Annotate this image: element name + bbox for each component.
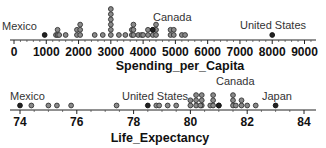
data-point (29, 103, 34, 108)
data-point (63, 33, 68, 38)
data-point (231, 93, 236, 98)
tick-label: 3000 (97, 45, 124, 59)
data-point (188, 98, 193, 103)
data-point (171, 33, 176, 38)
highlighted-point[interactable] (42, 33, 47, 38)
data-point (239, 98, 244, 103)
highlighted-point[interactable] (18, 103, 23, 108)
tick-label: 7000 (227, 45, 254, 59)
point-annotation: United States (122, 90, 189, 102)
data-point (199, 98, 204, 103)
axis-title: Life_Expectancy (111, 131, 210, 145)
data-point (199, 93, 204, 98)
data-point (157, 103, 162, 108)
data-point (171, 27, 176, 32)
data-point (78, 22, 83, 27)
point-annotation: Canada (153, 11, 192, 23)
data-point (146, 27, 151, 32)
highlighted-point[interactable] (216, 103, 221, 108)
data-point (100, 33, 105, 38)
data-point (253, 103, 258, 108)
tick-label: 78 (127, 115, 141, 129)
data-point (233, 103, 238, 108)
tick-label: 82 (241, 115, 255, 129)
data-point (46, 103, 51, 108)
tick-label: 80 (184, 115, 198, 129)
data-point (55, 103, 60, 108)
data-point (55, 27, 60, 32)
data-point (131, 33, 136, 38)
data-point (194, 98, 199, 103)
highlighted-point[interactable] (270, 33, 275, 38)
point-annotation: United States (240, 19, 307, 31)
data-point (211, 103, 216, 108)
data-point (108, 33, 113, 38)
data-point (78, 33, 83, 38)
data-point (108, 22, 113, 27)
tick-label: 9000 (291, 45, 318, 59)
data-point (198, 103, 203, 108)
data-point (174, 103, 179, 108)
data-point (131, 27, 136, 32)
life-expectancy-dotplot: 747678808284Life_ExpectancyMexicoUnited … (0, 74, 326, 148)
tick-label: 8000 (259, 45, 286, 59)
data-point (117, 33, 122, 38)
data-point (239, 103, 244, 108)
data-point (245, 103, 250, 108)
tick-label: 0 (11, 45, 18, 59)
data-point (108, 12, 113, 17)
highlighted-point[interactable] (273, 103, 278, 108)
tick-label: 1000 (33, 45, 60, 59)
tick-label: 76 (70, 115, 84, 129)
life-expectancy-dotplot-svg: 747678808284Life_ExpectancyMexicoUnited … (0, 74, 326, 148)
data-point (108, 17, 113, 22)
data-point (69, 103, 74, 108)
point-annotation: Mexico (2, 20, 37, 32)
axis-title: Spending_per_Capita (116, 59, 246, 73)
data-point (154, 33, 159, 38)
data-point (183, 33, 188, 38)
highlighted-point[interactable] (150, 27, 155, 32)
tick-label: 6000 (194, 45, 221, 59)
tick-label: 84 (297, 115, 311, 129)
data-point (211, 98, 216, 103)
data-point (114, 103, 119, 108)
data-point (146, 33, 151, 38)
data-point (123, 33, 128, 38)
data-point (78, 27, 83, 32)
tick-label: 74 (13, 115, 27, 129)
point-annotation: Japan (262, 90, 292, 102)
data-point (141, 33, 146, 38)
data-point (108, 7, 113, 12)
spending-dotplot: 0100020003000400050006000700080009000Spe… (0, 0, 326, 74)
data-point (165, 103, 170, 108)
data-point (92, 33, 97, 38)
data-point (188, 103, 193, 108)
point-annotation: Canada (216, 75, 255, 87)
highlighted-point[interactable] (145, 103, 150, 108)
point-annotation: Mexico (10, 90, 45, 102)
data-point (211, 93, 216, 98)
data-point (57, 33, 62, 38)
tick-label: 5000 (162, 45, 189, 59)
tick-label: 4000 (130, 45, 157, 59)
data-point (108, 27, 113, 32)
data-point (231, 98, 236, 103)
tick-label: 2000 (65, 45, 92, 59)
data-point (194, 93, 199, 98)
spending-dotplot-svg: 0100020003000400050006000700080009000Spe… (0, 0, 326, 74)
data-point (131, 22, 136, 27)
